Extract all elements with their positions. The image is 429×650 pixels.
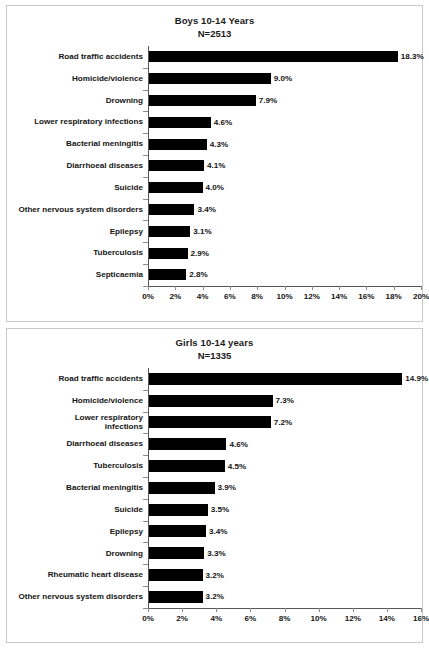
x-tick-mark	[421, 286, 422, 290]
category-label: Homicide/violence	[7, 396, 148, 406]
bar-row: Diarrhoeal diseases4.1%	[7, 155, 422, 177]
bar-row: Bacterial meningitis4.3%	[7, 133, 422, 155]
bar-track: 3.9%	[148, 477, 422, 499]
bar-row: Epilepsy3.4%	[7, 521, 422, 543]
bar-track: 3.4%	[148, 199, 422, 221]
y-tick-mark	[143, 111, 148, 112]
x-tick-label: 2%	[169, 292, 181, 301]
x-tick-mark	[230, 286, 231, 290]
bar	[148, 95, 256, 106]
bar-value-label: 7.3%	[276, 396, 294, 405]
x-tick-mark	[285, 286, 286, 290]
category-label: Lower respiratory infections	[7, 117, 148, 127]
bar-track: 4.3%	[148, 133, 422, 155]
bar-row: Drowning3.3%	[7, 542, 422, 564]
y-tick-mark	[143, 412, 148, 413]
y-tick-mark	[143, 220, 148, 221]
y-tick-mark	[143, 242, 148, 243]
x-tick-label: 12%	[304, 292, 320, 301]
bar	[148, 373, 402, 385]
y-tick-mark	[143, 521, 148, 522]
bar-track: 7.9%	[148, 90, 422, 112]
bar-track: 3.2%	[148, 564, 422, 586]
bar-track: 3.3%	[148, 542, 422, 564]
bar	[148, 525, 206, 537]
bar-row: Lower respiratory infections4.6%	[7, 111, 422, 133]
x-tick-mark	[250, 608, 251, 612]
bar	[148, 117, 211, 128]
bar	[148, 160, 204, 171]
category-label: Bacterial meningitis	[7, 139, 148, 149]
y-tick-mark	[143, 455, 148, 456]
y-tick-mark	[143, 264, 148, 265]
bar	[148, 73, 271, 84]
category-label: Homicide/violence	[7, 74, 148, 84]
y-tick-mark	[143, 433, 148, 434]
category-label: Epilepsy	[7, 227, 148, 237]
bar-track: 14.9%	[148, 368, 428, 390]
bar-value-label: 2.8%	[189, 270, 207, 279]
bar-row: Diarrhoeal diseases4.6%	[7, 433, 422, 455]
bar-track: 3.5%	[148, 499, 422, 521]
bar-track: 18.3%	[148, 46, 424, 68]
bar-track: 3.2%	[148, 586, 422, 608]
bar-rows-boys: Road traffic accidents18.3%Homicide/viol…	[7, 46, 422, 286]
chart-title-girls: Girls 10-14 years	[7, 329, 422, 350]
x-tick-mark	[421, 608, 422, 612]
x-tick-label: 10%	[311, 614, 327, 623]
bar-value-label: 3.4%	[209, 527, 227, 536]
y-tick-mark	[143, 177, 148, 178]
x-tick-label: 16%	[358, 292, 374, 301]
bar-track: 2.9%	[148, 242, 422, 264]
bar	[148, 226, 190, 237]
y-tick-mark	[143, 608, 148, 609]
y-tick-mark	[143, 155, 148, 156]
x-tick-mark	[182, 608, 183, 612]
x-tick-label: 14%	[331, 292, 347, 301]
x-tick-label: 0%	[142, 292, 154, 301]
bar-track: 3.1%	[148, 220, 422, 242]
x-tick-mark	[366, 286, 367, 290]
category-label: Rheumatic heart disease	[7, 570, 148, 580]
bar-track: 9.0%	[148, 68, 422, 90]
x-tick-mark	[203, 286, 204, 290]
bar	[148, 248, 188, 259]
x-tick-label: 14%	[379, 614, 395, 623]
bar-value-label: 3.2%	[206, 592, 224, 601]
bar	[148, 269, 186, 280]
bar-value-label: 4.3%	[210, 140, 228, 149]
category-label: Bacterial meningitis	[7, 483, 148, 493]
category-label: Diarrhoeal diseases	[7, 439, 148, 449]
x-tick-mark	[257, 286, 258, 290]
bar-row: Homicide/violence9.0%	[7, 68, 422, 90]
y-tick-mark	[143, 68, 148, 69]
bar	[148, 416, 271, 428]
bar	[148, 51, 398, 62]
chart-subtitle-girls: N=1335	[7, 350, 422, 362]
bar	[148, 547, 204, 559]
bar-value-label: 3.5%	[211, 505, 229, 514]
bar	[148, 182, 203, 193]
x-tick-mark	[319, 608, 320, 612]
plot-area-boys: Road traffic accidents18.3%Homicide/viol…	[7, 46, 422, 308]
category-label: Suicide	[7, 183, 148, 193]
chart-title-boys: Boys 10-14 Years	[7, 6, 422, 28]
bar-value-label: 3.2%	[206, 571, 224, 580]
bar	[148, 482, 215, 494]
category-label: Epilepsy	[7, 527, 148, 537]
bar-row: Tuberculosis2.9%	[7, 242, 422, 264]
bar-value-label: 4.0%	[206, 183, 224, 192]
x-tick-label: 10%	[276, 292, 292, 301]
x-tick-mark	[387, 608, 388, 612]
bar-row: Septicaemia2.8%	[7, 264, 422, 286]
bar-track: 4.6%	[148, 111, 422, 133]
category-label: Drowning	[7, 549, 148, 559]
y-tick-mark	[143, 199, 148, 200]
category-label: Road traffic accidents	[7, 374, 148, 384]
bar	[148, 504, 208, 516]
x-tick-label: 6%	[245, 614, 257, 623]
x-tick-label: 8%	[251, 292, 263, 301]
y-tick-mark	[143, 90, 148, 91]
y-tick-mark	[143, 286, 148, 287]
bar-value-label: 9.0%	[274, 74, 292, 83]
